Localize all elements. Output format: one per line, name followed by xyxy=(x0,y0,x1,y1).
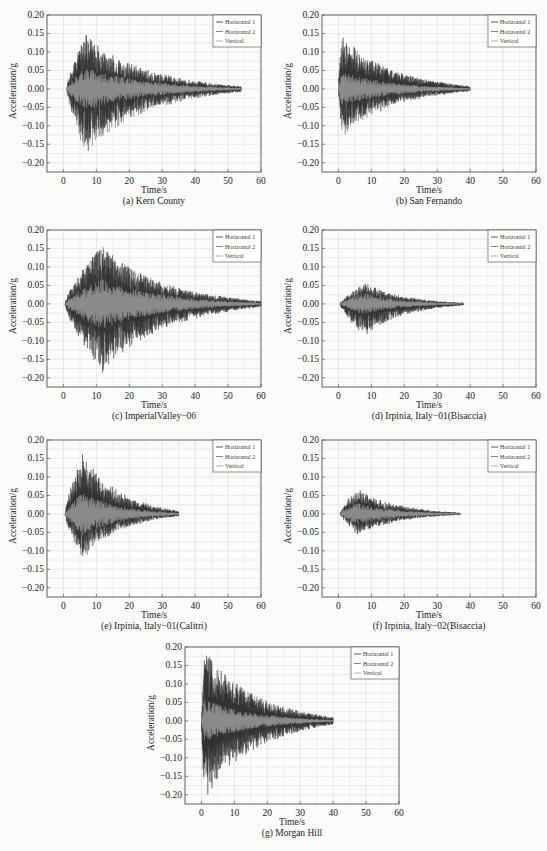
svg-text:0.10: 0.10 xyxy=(165,679,182,689)
plot-area: 01020304050600.200.150.100.050.00−0.05−0… xyxy=(275,215,547,425)
svg-text:0.10: 0.10 xyxy=(27,472,44,482)
svg-text:Horizontal 2: Horizontal 2 xyxy=(500,29,530,35)
svg-text:−0.10: −0.10 xyxy=(297,121,319,131)
svg-text:Vertical: Vertical xyxy=(225,463,244,469)
svg-text:−0.05: −0.05 xyxy=(22,317,44,327)
panel-caption: (a) Kern County xyxy=(47,196,261,206)
y-axis-label: Acceleration/g xyxy=(146,678,156,768)
svg-text:−0.05: −0.05 xyxy=(297,102,319,112)
svg-text:−0.10: −0.10 xyxy=(297,546,319,556)
svg-text:0.20: 0.20 xyxy=(27,10,44,20)
x-axis-label: Time/s xyxy=(47,185,261,195)
svg-text:0.15: 0.15 xyxy=(27,28,44,38)
svg-text:Horizontal 1: Horizontal 1 xyxy=(500,234,530,240)
x-axis-label: Time/s xyxy=(185,817,399,827)
x-axis-label: Time/s xyxy=(47,400,261,410)
plot-area: 01020304050600.200.150.100.050.00−0.05−0… xyxy=(0,215,275,425)
svg-text:−0.20: −0.20 xyxy=(22,373,44,383)
svg-text:−0.15: −0.15 xyxy=(22,564,44,574)
svg-text:0.05: 0.05 xyxy=(302,280,319,290)
svg-text:0.10: 0.10 xyxy=(27,262,44,272)
svg-text:0.15: 0.15 xyxy=(165,660,182,670)
svg-text:0.20: 0.20 xyxy=(302,225,319,235)
svg-text:0.00: 0.00 xyxy=(302,84,319,94)
svg-text:0.20: 0.20 xyxy=(27,225,44,235)
x-axis-label: Time/s xyxy=(322,400,536,410)
panel-caption: (g) Morgan Hill xyxy=(185,828,399,838)
x-axis-label: Time/s xyxy=(322,610,536,620)
y-axis-label: Acceleration/g xyxy=(8,471,18,561)
plot-area: 01020304050600.200.150.100.050.00−0.05−0… xyxy=(0,0,275,210)
svg-text:Horizontal 2: Horizontal 2 xyxy=(225,454,255,460)
svg-text:−0.05: −0.05 xyxy=(297,317,319,327)
y-axis-label: Acceleration/g xyxy=(8,261,18,351)
svg-text:Horizontal 1: Horizontal 1 xyxy=(225,19,255,25)
svg-text:0.10: 0.10 xyxy=(27,47,44,57)
svg-text:0.00: 0.00 xyxy=(165,716,182,726)
plot-area: 01020304050600.200.150.100.050.00−0.05−0… xyxy=(275,0,547,210)
chart-panel-g: 01020304050600.200.150.100.050.00−0.05−0… xyxy=(138,632,413,842)
svg-text:Vertical: Vertical xyxy=(225,38,244,44)
svg-text:−0.20: −0.20 xyxy=(160,790,182,800)
svg-text:0.00: 0.00 xyxy=(302,299,319,309)
svg-text:−0.15: −0.15 xyxy=(297,354,319,364)
svg-text:−0.15: −0.15 xyxy=(297,564,319,574)
panel-caption: (d) Irpinia, Italy−01(Bisaccia) xyxy=(322,411,536,421)
svg-text:Vertical: Vertical xyxy=(500,38,519,44)
svg-text:−0.15: −0.15 xyxy=(22,139,44,149)
svg-text:0.10: 0.10 xyxy=(302,262,319,272)
x-axis-label: Time/s xyxy=(47,610,261,620)
svg-text:−0.15: −0.15 xyxy=(22,354,44,364)
svg-text:−0.10: −0.10 xyxy=(297,336,319,346)
x-axis-label: Time/s xyxy=(322,185,536,195)
svg-text:−0.05: −0.05 xyxy=(160,734,182,744)
svg-text:Horizontal 1: Horizontal 1 xyxy=(225,444,255,450)
chart-panel-f: 01020304050600.200.150.100.050.00−0.05−0… xyxy=(275,425,547,635)
svg-text:0.00: 0.00 xyxy=(27,299,44,309)
svg-text:Vertical: Vertical xyxy=(225,253,244,259)
svg-text:Horizontal 2: Horizontal 2 xyxy=(500,454,530,460)
svg-text:−0.15: −0.15 xyxy=(160,771,182,781)
svg-text:−0.10: −0.10 xyxy=(160,753,182,763)
svg-text:0.05: 0.05 xyxy=(302,65,319,75)
svg-text:0.05: 0.05 xyxy=(27,490,44,500)
svg-text:0.05: 0.05 xyxy=(165,697,182,707)
svg-text:0.15: 0.15 xyxy=(27,453,44,463)
svg-text:−0.20: −0.20 xyxy=(297,583,319,593)
chart-panel-a: 01020304050600.200.150.100.050.00−0.05−0… xyxy=(0,0,275,210)
svg-text:0.20: 0.20 xyxy=(27,435,44,445)
plot-area: 01020304050600.200.150.100.050.00−0.05−0… xyxy=(0,425,275,635)
panel-caption: (c) ImperialValley−06 xyxy=(47,411,261,421)
panel-caption: (e) Irpinia, Italy−01(Calitri) xyxy=(47,621,261,631)
svg-text:−0.05: −0.05 xyxy=(22,102,44,112)
svg-text:−0.15: −0.15 xyxy=(297,139,319,149)
panel-caption: (f) Irpinia, Italy−02(Bisaccia) xyxy=(322,621,536,631)
svg-text:0.05: 0.05 xyxy=(27,65,44,75)
y-axis-label: Acceleration/g xyxy=(8,46,18,136)
svg-text:0.00: 0.00 xyxy=(302,509,319,519)
y-axis-label: Acceleration/g xyxy=(283,261,293,351)
svg-text:−0.10: −0.10 xyxy=(22,546,44,556)
plot-area: 01020304050600.200.150.100.050.00−0.05−0… xyxy=(138,632,413,842)
svg-text:Horizontal 2: Horizontal 2 xyxy=(225,244,255,250)
chart-panel-d: 01020304050600.200.150.100.050.00−0.05−0… xyxy=(275,215,547,425)
svg-text:Horizontal 1: Horizontal 1 xyxy=(500,444,530,450)
svg-text:−0.05: −0.05 xyxy=(22,527,44,537)
svg-text:0.10: 0.10 xyxy=(302,47,319,57)
svg-text:−0.05: −0.05 xyxy=(297,527,319,537)
svg-text:Horizontal 1: Horizontal 1 xyxy=(363,651,393,657)
svg-text:−0.20: −0.20 xyxy=(22,158,44,168)
svg-text:0.20: 0.20 xyxy=(302,10,319,20)
svg-text:−0.10: −0.10 xyxy=(22,336,44,346)
svg-text:−0.20: −0.20 xyxy=(297,373,319,383)
svg-text:Horizontal 2: Horizontal 2 xyxy=(225,29,255,35)
svg-text:Horizontal 1: Horizontal 1 xyxy=(225,234,255,240)
svg-text:0.00: 0.00 xyxy=(27,84,44,94)
svg-text:0.15: 0.15 xyxy=(302,453,319,463)
svg-text:0.20: 0.20 xyxy=(302,435,319,445)
svg-text:0.15: 0.15 xyxy=(27,243,44,253)
svg-text:−0.20: −0.20 xyxy=(297,158,319,168)
svg-text:Vertical: Vertical xyxy=(500,253,519,259)
svg-text:Vertical: Vertical xyxy=(363,670,382,676)
svg-text:0.20: 0.20 xyxy=(165,642,182,652)
